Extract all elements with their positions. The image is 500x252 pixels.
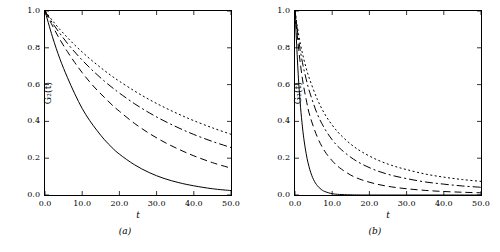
- panel-a: G₂(t) t 0.010.020.030.040.050.00.00.20.4…: [0, 0, 250, 252]
- curve-curve-3-dashdot: [295, 11, 481, 187]
- x-axis-label-b: t: [294, 210, 482, 220]
- curve-curve-1-solid: [45, 11, 231, 191]
- y-tick-label: 0.4: [18, 116, 40, 125]
- y-tick-label: 0.8: [268, 43, 290, 52]
- curve-curve-2-dashed: [295, 11, 481, 193]
- panel-caption-b: (b): [250, 226, 500, 236]
- x-tick-label: 50.0: [468, 199, 494, 208]
- x-tick-label: 10.0: [319, 199, 345, 208]
- y-tick-label: 1.0: [18, 6, 40, 15]
- x-tick-label: 40.0: [181, 199, 207, 208]
- curve-curve-3-dashdot: [45, 11, 231, 148]
- figure-root: G₂(t) t 0.010.020.030.040.050.00.00.20.4…: [0, 0, 500, 252]
- y-axis-label-b: G₂(t): [293, 63, 303, 123]
- y-tick-label: 0.6: [268, 80, 290, 89]
- panel-caption-a: (a): [0, 226, 250, 236]
- x-axis-label-a: t: [44, 210, 232, 220]
- curve-curve-1-solid: [295, 11, 481, 195]
- x-tick-label: 10.0: [69, 199, 95, 208]
- x-tick-label: 40.0: [431, 199, 457, 208]
- y-tick-label: 0.2: [18, 153, 40, 162]
- y-axis-label-a: G₂(t): [43, 63, 53, 123]
- curves-b: [294, 10, 482, 196]
- x-tick-label: 20.0: [356, 199, 382, 208]
- plot-area-a: G₂(t) t 0.010.020.030.040.050.00.00.20.4…: [44, 10, 232, 196]
- y-tick-label: 0.2: [268, 153, 290, 162]
- y-tick-label: 0.0: [268, 190, 290, 199]
- curve-curve-4-dotted: [45, 11, 231, 134]
- y-tick-label: 0.0: [18, 190, 40, 199]
- x-tick-label: 30.0: [144, 199, 170, 208]
- y-tick-label: 1.0: [268, 6, 290, 15]
- x-tick-label: 50.0: [218, 199, 244, 208]
- curves-a: [44, 10, 232, 196]
- plot-area-b: G₂(t) t 0.010.020.030.040.050.00.00.20.4…: [294, 10, 482, 196]
- y-tick-label: 0.4: [268, 116, 290, 125]
- x-tick-label: 20.0: [106, 199, 132, 208]
- y-tick-label: 0.6: [18, 80, 40, 89]
- y-tick-label: 0.8: [18, 43, 40, 52]
- x-tick-label: 30.0: [394, 199, 420, 208]
- x-tick-label: 0.0: [32, 199, 58, 208]
- x-tick-label: 0.0: [282, 199, 308, 208]
- curve-curve-4-dotted: [295, 11, 481, 181]
- panel-b: G₂(t) t 0.010.020.030.040.050.00.00.20.4…: [250, 0, 500, 252]
